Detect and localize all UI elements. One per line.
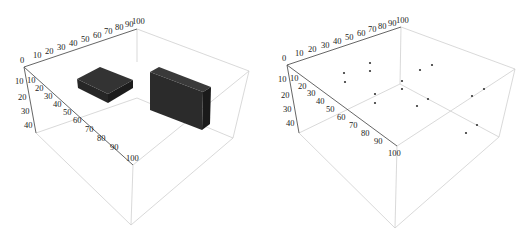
svg-text:60: 60 <box>73 115 82 125</box>
svg-text:80: 80 <box>115 22 124 32</box>
left-frame-lines <box>36 29 249 225</box>
svg-text:30: 30 <box>321 40 330 50</box>
scatter-point <box>476 124 478 126</box>
scatter-point <box>374 93 376 95</box>
svg-text:20: 20 <box>18 92 27 102</box>
small-box <box>77 67 133 103</box>
svg-text:40: 40 <box>69 38 78 48</box>
svg-text:0: 0 <box>282 53 286 63</box>
svg-text:20: 20 <box>35 83 44 93</box>
svg-text:70: 70 <box>85 124 94 134</box>
svg-text:10: 10 <box>15 76 24 86</box>
svg-text:20: 20 <box>45 46 54 56</box>
svg-text:30: 30 <box>44 91 53 101</box>
svg-text:40: 40 <box>286 118 295 128</box>
svg-text:70: 70 <box>104 26 113 36</box>
right-frame-lines <box>299 27 515 228</box>
svg-text:40: 40 <box>24 120 33 130</box>
scatter-point <box>419 69 421 71</box>
svg-text:40: 40 <box>316 96 325 106</box>
svg-text:20: 20 <box>298 81 307 91</box>
right-3d-scatter-plot: 0 10 20 30 40 50 60 70 80 90 100 10 20 3… <box>266 0 532 241</box>
scatter-point <box>465 132 467 134</box>
svg-text:30: 30 <box>307 88 316 98</box>
large-box <box>150 67 211 130</box>
svg-text:30: 30 <box>21 106 30 116</box>
svg-text:60: 60 <box>93 30 102 40</box>
svg-text:50: 50 <box>63 107 72 117</box>
svg-text:80: 80 <box>378 21 387 31</box>
svg-text:30: 30 <box>57 42 66 52</box>
svg-text:20: 20 <box>308 44 317 54</box>
svg-text:90: 90 <box>374 136 383 146</box>
svg-text:0: 0 <box>20 55 24 65</box>
svg-text:10: 10 <box>33 50 42 60</box>
svg-text:80: 80 <box>361 128 370 138</box>
svg-text:90: 90 <box>110 142 119 152</box>
svg-text:10: 10 <box>278 74 287 84</box>
scatter-point <box>416 105 418 107</box>
svg-text:100: 100 <box>126 153 139 163</box>
left-plot-canvas: 0 10 20 30 40 50 60 70 80 90 100 10 20 3… <box>0 0 266 241</box>
scatter-point <box>369 62 371 64</box>
svg-text:50: 50 <box>81 34 90 44</box>
scatter-point <box>374 102 376 104</box>
scatter-point <box>471 95 473 97</box>
svg-text:70: 70 <box>349 120 358 130</box>
svg-text:40: 40 <box>53 99 62 109</box>
svg-text:60: 60 <box>337 112 346 122</box>
scatter-point <box>369 70 371 72</box>
scatter-point <box>483 88 485 90</box>
svg-text:100: 100 <box>396 15 409 25</box>
left-3d-box-plot: 0 10 20 30 40 50 60 70 80 90 100 10 20 3… <box>0 0 266 241</box>
svg-text:10: 10 <box>295 48 304 58</box>
svg-text:70: 70 <box>368 24 377 34</box>
svg-text:80: 80 <box>97 133 106 143</box>
scatter-point <box>401 80 403 82</box>
svg-text:100: 100 <box>132 16 145 26</box>
right-plot-canvas: 0 10 20 30 40 50 60 70 80 90 100 10 20 3… <box>266 0 532 241</box>
svg-text:100: 100 <box>388 148 401 158</box>
svg-text:50: 50 <box>326 104 335 114</box>
svg-text:50: 50 <box>345 32 354 42</box>
right-top-axis-ticks: 0 10 20 30 40 50 60 70 80 90 100 <box>282 15 409 63</box>
svg-text:30: 30 <box>283 104 292 114</box>
scatter-point <box>344 81 346 83</box>
scatter-points <box>343 62 485 134</box>
scatter-point <box>427 98 429 100</box>
scatter-point <box>431 64 433 66</box>
svg-text:60: 60 <box>357 28 366 38</box>
svg-text:40: 40 <box>333 36 342 46</box>
right-diag-axis-ticks: 10 20 30 40 50 60 70 80 90 100 <box>290 73 401 158</box>
scatter-point <box>401 88 403 90</box>
scatter-point <box>343 72 345 74</box>
svg-text:20: 20 <box>281 90 290 100</box>
left-top-axis-ticks: 0 10 20 30 40 50 60 70 80 90 100 <box>20 16 145 65</box>
